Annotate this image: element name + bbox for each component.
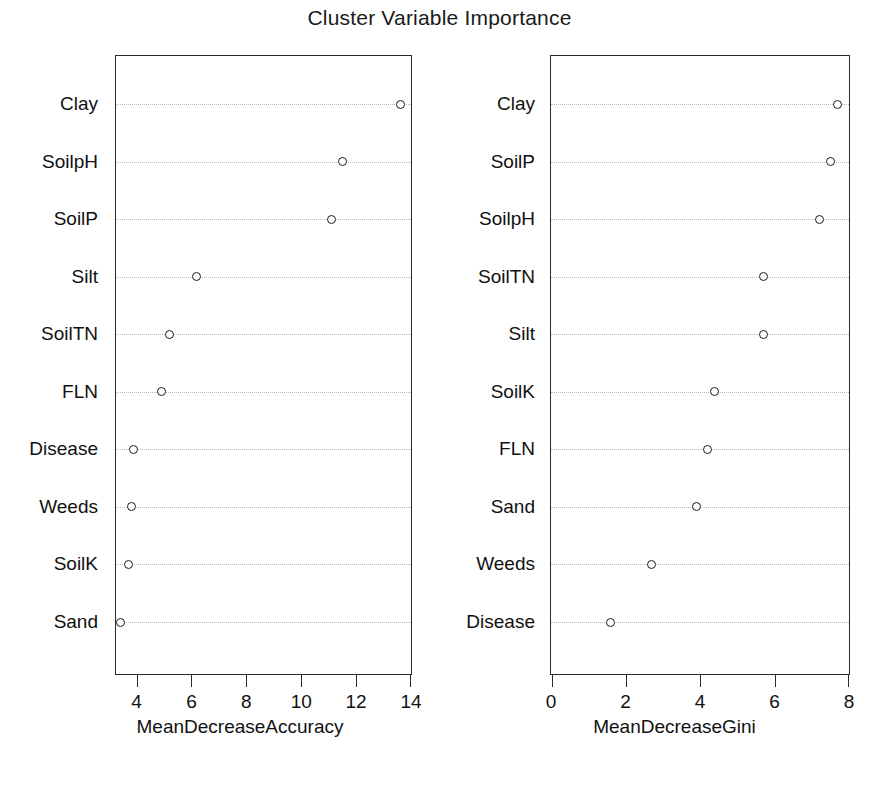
x-axis-tick (626, 674, 627, 687)
gridline (116, 219, 411, 220)
data-point (826, 157, 835, 166)
y-axis-tick-label: Clay (497, 93, 535, 115)
data-point (116, 618, 125, 627)
data-point (833, 100, 842, 109)
gridline (116, 104, 411, 105)
gridline (551, 392, 849, 393)
y-axis-tick-label: SoilP (491, 151, 535, 173)
plot-area-left: ClaySoilpHSoilPSiltSoilTNFLNDiseaseWeeds… (115, 55, 412, 675)
y-axis-tick-label: SoilTN (41, 323, 98, 345)
gridline (551, 104, 849, 105)
x-axis-tick (191, 674, 192, 687)
y-axis-tick-label: Silt (509, 323, 535, 345)
data-point (606, 618, 615, 627)
x-axis-tick-label: 10 (291, 691, 312, 713)
gridline (551, 622, 849, 623)
panel-mean-decrease-accuracy: ClaySoilpHSoilPSiltSoilTNFLNDiseaseWeeds… (0, 0, 440, 794)
x-axis-tick-label: 12 (346, 691, 367, 713)
data-point (703, 445, 712, 454)
gridline (551, 449, 849, 450)
data-point (338, 157, 347, 166)
gridline (116, 162, 411, 163)
y-axis-tick-label: SoilK (54, 553, 98, 575)
y-axis-tick-label: Disease (29, 438, 98, 460)
y-axis-tick-label: Weeds (39, 496, 98, 518)
x-axis-tick (137, 674, 138, 687)
plot-area-right: ClaySoilPSoilpHSoilTNSiltSoilKFLNSandWee… (550, 55, 850, 675)
chart-canvas: Cluster Variable Importance ClaySoilpHSo… (0, 0, 879, 794)
data-point (127, 502, 136, 511)
data-point (647, 560, 656, 569)
x-axis-tick (700, 674, 701, 687)
gridline (116, 622, 411, 623)
gridline (551, 334, 849, 335)
data-point (124, 560, 133, 569)
gridline (116, 449, 411, 450)
y-axis-tick-label: FLN (62, 381, 98, 403)
y-axis-tick-label: SoilpH (479, 208, 535, 230)
gridline (116, 334, 411, 335)
data-point (327, 215, 336, 224)
gridline (551, 162, 849, 163)
data-point (165, 330, 174, 339)
y-axis-tick-label: SoilK (491, 381, 535, 403)
gridline (116, 507, 411, 508)
data-point (396, 100, 405, 109)
x-axis-title-right: MeanDecreaseGini (440, 716, 879, 738)
y-axis-tick-label: FLN (499, 438, 535, 460)
x-axis-tick (410, 674, 411, 687)
data-point (129, 445, 138, 454)
gridline (551, 219, 849, 220)
x-axis-tick-label: 6 (769, 691, 780, 713)
x-axis-tick-label: 8 (241, 691, 252, 713)
panel-mean-decrease-gini: ClaySoilPSoilpHSoilTNSiltSoilKFLNSandWee… (440, 0, 879, 794)
x-axis-tick (301, 674, 302, 687)
x-axis-tick-label: 4 (131, 691, 142, 713)
data-point (157, 387, 166, 396)
y-axis-tick-label: Weeds (476, 553, 535, 575)
x-axis-tick-label: 6 (186, 691, 197, 713)
x-axis-tick-label: 0 (546, 691, 557, 713)
gridline (551, 277, 849, 278)
y-axis-tick-label: SoilpH (42, 151, 98, 173)
y-axis-tick-label: SoilTN (478, 266, 535, 288)
data-point (759, 330, 768, 339)
y-axis-tick-label: Sand (54, 611, 98, 633)
gridline (551, 564, 849, 565)
data-point (710, 387, 719, 396)
data-point (815, 215, 824, 224)
y-axis-tick-label: Clay (60, 93, 98, 115)
x-axis-tick-label: 4 (695, 691, 706, 713)
x-axis-tick-label: 2 (620, 691, 631, 713)
y-axis-tick-label: Sand (491, 496, 535, 518)
x-axis-tick-label: 8 (844, 691, 855, 713)
y-axis-tick-label: Disease (466, 611, 535, 633)
x-axis-tick (848, 674, 849, 687)
data-point (192, 272, 201, 281)
x-axis-tick (775, 674, 776, 687)
x-axis-tick-label: 14 (400, 691, 421, 713)
gridline (116, 564, 411, 565)
x-axis-title-left: MeanDecreaseAccuracy (0, 716, 440, 738)
y-axis-tick-label: SoilP (54, 208, 98, 230)
x-axis-tick (552, 674, 553, 687)
x-axis-tick (246, 674, 247, 687)
y-axis-tick-label: Silt (72, 266, 98, 288)
gridline (116, 277, 411, 278)
data-point (692, 502, 701, 511)
data-point (759, 272, 768, 281)
x-axis-tick (356, 674, 357, 687)
